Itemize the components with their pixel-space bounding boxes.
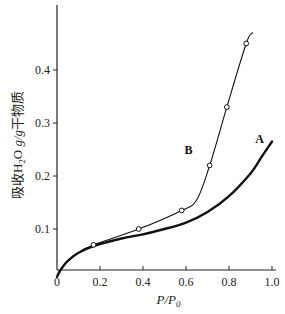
x-tick-label: 0.6 (179, 275, 194, 289)
series-b-marker (179, 208, 184, 213)
x-axis-title: P/P0 (156, 292, 182, 309)
y-tick-label: 0.3 (35, 116, 50, 130)
series-b-marker (91, 243, 96, 248)
series-b-marker (224, 105, 229, 110)
y-tick-label: 0.4 (35, 63, 50, 77)
y-axis-title: 吸收H2O g/g干物质 (10, 91, 27, 199)
axes: 0.10.20.30.400.20.40.60.81.0P/P0吸收H2O g/… (10, 5, 280, 309)
series-group (57, 33, 272, 277)
isotherm-chart: 0.10.20.30.400.20.40.60.81.0P/P0吸收H2O g/… (0, 0, 285, 314)
annotations: AB (185, 132, 265, 157)
series-b-line (57, 33, 253, 277)
x-tick-label: 0.8 (222, 275, 237, 289)
y-tick-label: 0.1 (35, 222, 50, 236)
series-b-marker (136, 227, 141, 232)
series-b-marker (207, 163, 212, 168)
series-label-b: B (185, 143, 193, 157)
series-label-a: A (255, 132, 264, 146)
x-tick-label: 0.2 (93, 275, 108, 289)
series-a-line (57, 142, 272, 277)
x-tick-label: 1.0 (265, 275, 280, 289)
y-tick-label: 0.2 (35, 169, 50, 183)
series-b-marker (244, 41, 249, 46)
x-tick-label: 0.4 (136, 275, 151, 289)
